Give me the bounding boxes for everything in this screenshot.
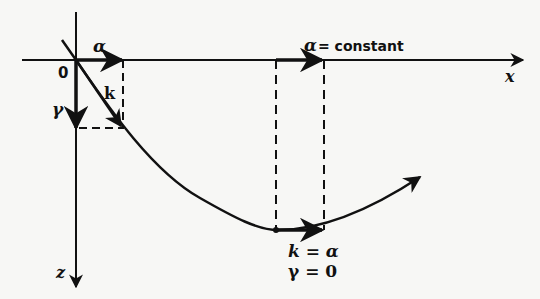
ray-diagram: α 0 k γ α = constant x z k = α γ = 0 [0,0,540,299]
k-equals-alpha-label: k = α [288,241,339,261]
k-label: k [104,84,116,103]
alpha-constant-symbol: α [304,35,317,55]
alpha-label: α [93,36,106,56]
ray-path-curve [62,40,420,230]
turning-point-dot [273,227,279,233]
origin-label: 0 [58,64,68,82]
x-axis-label: x [504,67,515,86]
gamma-label: γ [52,99,64,119]
alpha-constant-text: = constant [318,38,404,54]
dashed-box-bottom [276,60,324,230]
gamma-equals-zero-label: γ = 0 [288,261,337,281]
z-axis-label: z [55,263,66,282]
